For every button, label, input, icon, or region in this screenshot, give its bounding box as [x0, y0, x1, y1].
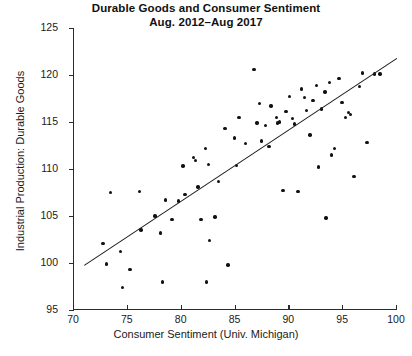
scatter-point	[207, 163, 210, 166]
y-axis-tick-labels: 95100105110115120125	[0, 28, 66, 310]
scatter-point	[244, 142, 247, 145]
scatter-point	[278, 120, 281, 123]
scatter-point	[260, 139, 263, 142]
x-tick-label: 85	[220, 313, 250, 325]
scatter-point	[217, 180, 220, 183]
y-tick-label: 110	[41, 162, 58, 174]
y-tick-115	[69, 122, 74, 123]
scatter-point	[128, 268, 131, 271]
scatter-point	[170, 218, 173, 221]
scatter-point	[324, 216, 327, 219]
scatter-point	[323, 90, 326, 93]
scatter-point	[264, 124, 267, 127]
x-tick-label: 90	[273, 313, 303, 325]
scatter-point	[352, 175, 355, 178]
scatter-point	[109, 191, 112, 194]
scatter-point	[223, 127, 226, 130]
regression-line	[84, 58, 397, 266]
scatter-point	[349, 113, 352, 116]
scatter-point	[291, 117, 294, 120]
scatter-point	[255, 121, 258, 124]
x-tick-label: 100	[381, 313, 411, 325]
x-tick-75	[127, 305, 128, 310]
scatter-point	[233, 136, 236, 139]
scatter-point	[269, 104, 272, 107]
y-tick-label: 115	[41, 115, 58, 127]
x-axis-title: Consumer Sentiment (Univ. Michigan)	[0, 328, 412, 340]
y-tick-label: 95	[46, 303, 58, 315]
chart-title-block: Durable Goods and Consumer Sentiment Aug…	[0, 2, 412, 29]
x-tick-95	[342, 305, 343, 310]
y-tick-125	[69, 28, 74, 29]
scatter-point	[288, 95, 291, 98]
y-tick-label: 100	[40, 256, 58, 268]
plot-area	[73, 28, 396, 310]
y-tick-label: 120	[40, 68, 58, 80]
scatter-point	[164, 198, 167, 201]
scatter-point	[333, 147, 336, 150]
scatter-point	[105, 262, 108, 265]
scatter-point	[252, 68, 255, 71]
scatter-point	[205, 280, 208, 283]
scatter-point	[181, 164, 184, 167]
scatter-point	[361, 71, 364, 74]
chart-subtitle: Aug. 2012–Aug 2017	[0, 16, 412, 30]
scatter-point	[159, 231, 162, 234]
scatter-point	[119, 250, 122, 253]
x-axis-tick-labels: 707580859095100	[73, 313, 396, 329]
scatter-point	[315, 84, 318, 87]
x-tick-label: 75	[112, 313, 142, 325]
scatter-point	[204, 147, 207, 150]
x-tick-label: 80	[166, 313, 196, 325]
scatter-point	[317, 165, 320, 168]
scatter-point	[183, 193, 186, 196]
y-tick-105	[69, 216, 74, 217]
x-tick-label: 95	[327, 313, 357, 325]
x-tick-100	[396, 305, 397, 310]
scatter-point	[305, 109, 308, 112]
scatter-point	[267, 145, 270, 148]
scatter-point	[330, 153, 333, 156]
scatter-point	[300, 87, 303, 90]
x-tick-label: 70	[58, 313, 88, 325]
scatter-point	[208, 239, 211, 242]
scatter-point	[308, 133, 311, 136]
scatter-point	[199, 218, 202, 221]
scatter-point	[138, 190, 141, 193]
scatter-point	[101, 242, 104, 245]
y-tick-100	[69, 263, 74, 264]
scatter-point	[311, 99, 314, 102]
scatter-point	[328, 81, 331, 84]
scatter-point	[237, 116, 240, 119]
x-tick-80	[181, 305, 182, 310]
scatter-point	[337, 77, 340, 80]
y-tick-label: 125	[40, 21, 58, 33]
y-axis-title: Industrial Production: Durable Goods	[14, 11, 26, 311]
scatter-point	[303, 96, 306, 99]
scatter-point	[121, 286, 124, 289]
scatter-point	[275, 116, 278, 119]
x-tick-90	[288, 305, 289, 310]
scatter-point	[258, 102, 261, 105]
scatter-point	[344, 116, 347, 119]
scatter-point	[378, 72, 381, 75]
chart-title: Durable Goods and Consumer Sentiment	[0, 2, 412, 16]
y-tick-95	[69, 310, 74, 311]
y-tick-label: 105	[40, 209, 58, 221]
scatter-point	[365, 141, 368, 144]
y-tick-110	[69, 169, 74, 170]
scatter-point	[281, 189, 284, 192]
scatter-point	[213, 215, 216, 218]
scatter-point	[226, 263, 229, 266]
scatter-chart: Durable Goods and Consumer Sentiment Aug…	[0, 0, 412, 356]
scatter-point	[340, 101, 343, 104]
y-tick-120	[69, 75, 74, 76]
scatter-point	[296, 190, 299, 193]
scatter-point	[284, 110, 287, 113]
scatter-point	[358, 85, 361, 88]
x-tick-85	[235, 305, 236, 310]
scatter-point	[194, 159, 197, 162]
scatter-point	[161, 280, 164, 283]
